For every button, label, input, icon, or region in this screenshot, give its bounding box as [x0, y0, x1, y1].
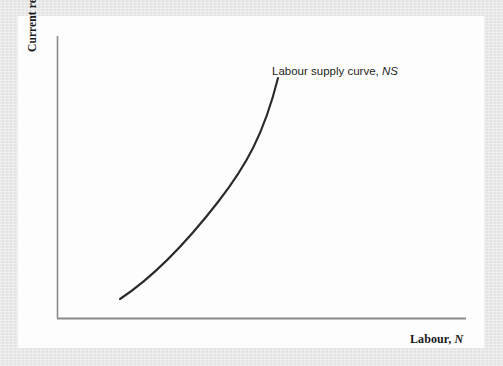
x-axis-label: Labour, N [410, 332, 463, 347]
curve-annotation-label: Labour supply curve, NS [272, 65, 398, 77]
x-axis-label-prefix: Labour, [410, 332, 454, 346]
labour-supply-chart-svg [18, 16, 484, 348]
y-axis-label-prefix: Current real wage, [26, 0, 38, 52]
labour-supply-curve [120, 78, 278, 299]
y-axis-label-wrapper: Current real wage, w [32, 34, 50, 174]
y-axis-label: Current real wage, w [26, 34, 38, 52]
curve-annotation-symbol: NS [382, 65, 398, 77]
x-axis-label-symbol: N [454, 332, 463, 346]
curve-annotation-prefix: Labour supply curve, [272, 65, 382, 77]
figure-card: Current real wage, w Labour, N Labour su… [18, 16, 484, 348]
figure-root: Current real wage, w Labour, N Labour su… [0, 0, 503, 366]
plot-area: Current real wage, w Labour, N Labour su… [18, 16, 484, 348]
